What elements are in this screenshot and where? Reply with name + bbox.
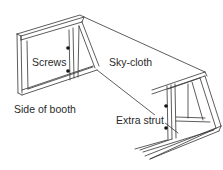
screw-icon (66, 69, 70, 73)
booth-frame-drawing (0, 0, 223, 170)
screw-icon (164, 126, 168, 130)
label-screws: Screws (31, 57, 67, 68)
screw-icon (66, 46, 70, 50)
label-extra-strut: Extra strut (115, 115, 165, 126)
screw-icon (164, 104, 168, 108)
side-frame (17, 15, 99, 95)
label-side-of-booth: Side of booth (13, 104, 77, 115)
label-sky-cloth: Sky-cloth (108, 57, 153, 68)
